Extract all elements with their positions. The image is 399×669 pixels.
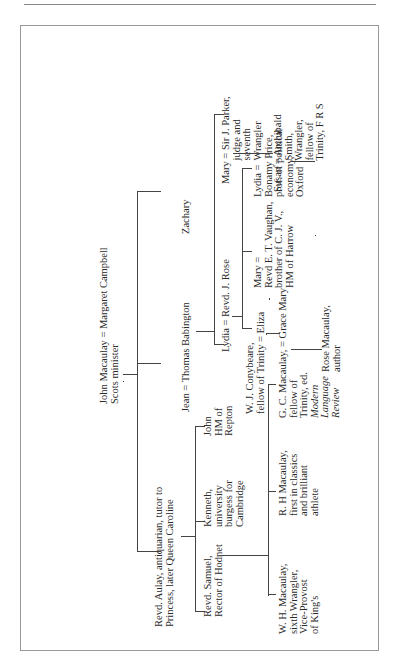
node-jean-thomas-babington: Jean = Thomas Babington bbox=[181, 302, 192, 412]
node-r-h-macaulay: R. H Macaulay, first in classics and bri… bbox=[278, 450, 320, 516]
connector bbox=[291, 161, 315, 162]
connector bbox=[268, 491, 276, 492]
connector bbox=[242, 168, 252, 169]
node-rose-macaulay: Rose Macaulay, author bbox=[321, 305, 342, 372]
connector bbox=[242, 169, 243, 329]
connector bbox=[137, 191, 161, 192]
node-susan-archibald-smith: Susan = Archibald Smith, Wrangler, fello… bbox=[273, 103, 326, 192]
connector bbox=[268, 385, 269, 595]
family-tree-canvas: John Macaulay = Margaret Campbell Scots … bbox=[21, 26, 380, 652]
family-tree-frame: John Macaulay = Margaret Campbell Scots … bbox=[20, 25, 379, 651]
node-revd-aulay: Revd. Aulay, antiquarian, tutor to Princ… bbox=[154, 487, 175, 627]
connector bbox=[268, 594, 276, 595]
node-mary-vaughan: Mary = Revd E. T. Vaughan, brother of C.… bbox=[253, 202, 295, 288]
connector bbox=[196, 331, 214, 332]
node-john-macaulay: John Macaulay = Margaret Campbell Scots … bbox=[99, 247, 120, 404]
page-top-rule bbox=[24, 4, 376, 5]
connector bbox=[137, 363, 161, 364]
node-john-repton: John HM of Repton bbox=[203, 406, 235, 436]
node-w-h-macaulay: W. H. Macaulay, sixth Wrangler, Vice-Pro… bbox=[278, 564, 320, 634]
connector bbox=[195, 427, 196, 612]
connector bbox=[137, 192, 138, 552]
connector bbox=[214, 115, 215, 345]
connector bbox=[268, 384, 276, 385]
node-conybeare-eliza: W. J. Conybeare, fellow of Trinity = Eli… bbox=[245, 312, 266, 414]
connector bbox=[181, 536, 195, 537]
connector bbox=[242, 251, 252, 252]
connector bbox=[221, 555, 268, 556]
connector bbox=[233, 153, 273, 154]
node-kenneth: Kenneth, university burgess for Cambridg… bbox=[203, 480, 245, 527]
connector bbox=[266, 333, 280, 334]
node-zachary: Zachary bbox=[181, 200, 192, 234]
node-lydia-rose: Lydia = Revd. J. Rose bbox=[221, 259, 232, 352]
connector bbox=[123, 374, 137, 375]
connector bbox=[232, 316, 242, 317]
connector bbox=[291, 349, 321, 350]
